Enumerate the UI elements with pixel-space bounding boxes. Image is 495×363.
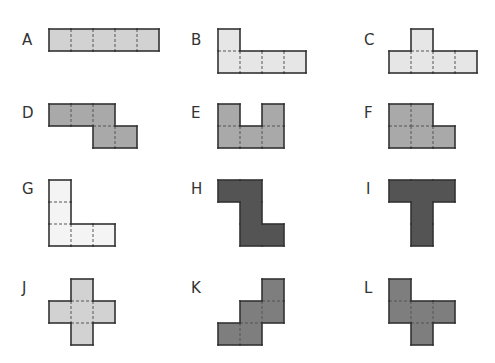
net-shape-j <box>48 278 116 346</box>
net-shape-e <box>217 103 285 149</box>
shape-label-g: G <box>22 182 34 197</box>
net-shape-g <box>48 179 116 247</box>
shape-label-d: D <box>22 106 34 121</box>
shape-label-h: H <box>191 182 202 197</box>
net-shape-i <box>388 179 456 247</box>
shape-label-b: B <box>191 33 201 48</box>
net-shape-k <box>217 278 285 346</box>
net-shape-h <box>217 179 285 247</box>
shape-label-a: A <box>22 33 32 48</box>
net-shape-l <box>388 278 456 346</box>
shape-label-k: K <box>191 281 201 296</box>
net-shape-c <box>388 28 478 74</box>
net-shape-d <box>48 103 138 149</box>
shape-label-l: L <box>364 281 372 296</box>
net-shape-a <box>48 28 160 52</box>
shape-label-e: E <box>191 106 200 121</box>
shape-label-c: C <box>364 33 374 48</box>
shape-label-i: I <box>366 182 370 197</box>
shape-label-f: F <box>364 106 373 121</box>
shape-label-j: J <box>22 281 26 296</box>
net-shape-f <box>388 103 456 149</box>
net-shape-b <box>217 28 307 74</box>
